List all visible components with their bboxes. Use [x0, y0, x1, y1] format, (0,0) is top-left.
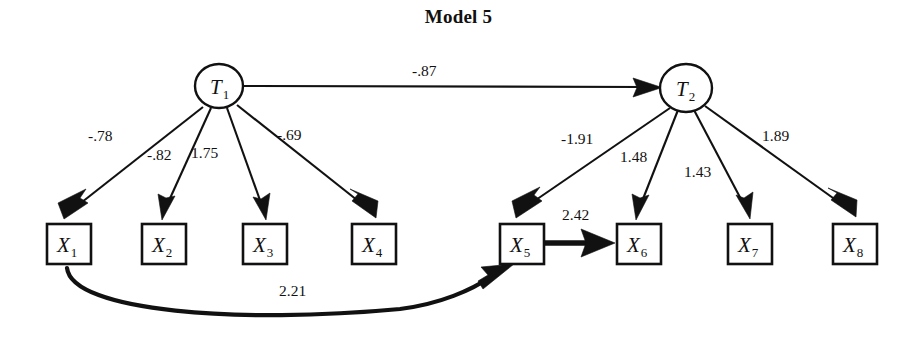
edge-label-t2-x7: 1.43 — [684, 164, 711, 180]
edge-label-t2-x6: 1.48 — [620, 149, 647, 165]
node-x3[interactable]: X3 — [243, 224, 287, 264]
node-x8[interactable]: X8 — [833, 224, 877, 264]
node-t1[interactable]: T1 — [195, 64, 243, 108]
edge-label-x1-x5: 2.21 — [279, 283, 306, 299]
edge-x5-x6 — [545, 229, 615, 257]
edge-t1-x2 — [158, 108, 211, 220]
node-x1[interactable]: X1 — [47, 224, 91, 264]
edge-label-x5-x6: 2.42 — [562, 207, 589, 223]
path-diagram-canvas: T1 T2 X1 X2 X3 X4 X5 — [0, 0, 917, 342]
edge-label-t1-x1: -.78 — [88, 128, 113, 144]
path-diagram-page: Model 5 — [0, 0, 917, 342]
edge-label-t2-x5: -1.91 — [561, 131, 593, 147]
edge-label-t1-x4: -.69 — [277, 127, 302, 143]
edge-label-t1-t2: -.87 — [412, 63, 437, 79]
edge-t1-x1 — [58, 107, 203, 219]
node-x2[interactable]: X2 — [142, 224, 186, 264]
edge-t2-x6 — [632, 110, 678, 220]
node-x7[interactable]: X7 — [728, 224, 772, 264]
edge-t1-t2 — [243, 78, 662, 97]
node-x5[interactable]: X5 — [500, 224, 544, 264]
node-x4[interactable]: X4 — [352, 224, 396, 264]
node-t2[interactable]: T2 — [660, 64, 712, 112]
edge-t2-x8 — [705, 106, 857, 217]
edge-label-t2-x8: 1.89 — [762, 128, 789, 144]
edge-label-t1-x3: 1.75 — [191, 145, 218, 161]
node-x6[interactable]: X6 — [617, 224, 661, 264]
edge-label-t1-x2: -.82 — [147, 147, 172, 163]
